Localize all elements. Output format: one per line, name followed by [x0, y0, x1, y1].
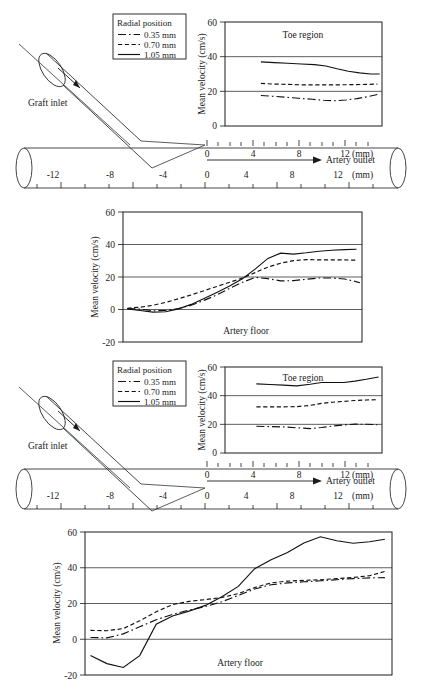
artery-outlet-arrow-upper	[207, 157, 322, 164]
graft-tick-0-upper: 0	[205, 170, 210, 180]
chart-x-unit-lower: (mm)	[352, 470, 373, 481]
artery-tick-12-lower2: 12	[333, 491, 343, 501]
floor1-ytick-0: 0	[110, 305, 115, 315]
toe1-ylabel: Mean velocity (cm/s)	[197, 33, 208, 114]
artery-tick-8-lower2: 8	[290, 491, 295, 501]
chart-xtick-12-upper: 12	[340, 149, 350, 159]
artery-tick-8-lower-upper: 8	[290, 170, 295, 180]
graft-tick--12-upper: -12	[47, 170, 60, 180]
chart-toe-region-1: 0 20 40 60 Mean velocity (cm/s) Toe regi…	[197, 18, 382, 132]
toe1-ytick-40: 40	[208, 52, 218, 62]
chart-toe-region-2: 0 20 40 60 Mean velocity (cm/s) Toe regi…	[197, 363, 382, 459]
artery-tick-4-lower2: 4	[244, 491, 249, 501]
chart-xtick-4-upper: 4	[251, 149, 256, 159]
chart-artery-floor-2: 60 40 20 0 -20 Mean velocity (cm/s) Arte…	[52, 528, 392, 681]
floor1-ytick--20: -20	[102, 338, 115, 348]
floor2-ytick-0: 0	[72, 635, 77, 645]
legend-entry-105-lower: 1.05 mm	[144, 397, 176, 407]
floor2-curve-070	[91, 571, 385, 630]
toe2-ytick-60: 60	[208, 363, 218, 373]
panel-artery-floor-lower: 60 40 20 0 -20 Mean velocity (cm/s) Arte…	[0, 520, 422, 691]
floor1-ytick-20: 20	[106, 273, 116, 283]
legend-upper: Radial position 0.35 mm 0.70 mm 1.05 mm	[113, 14, 186, 60]
toe2-ytick-0: 0	[212, 448, 217, 458]
toe1-region-label: Toe region	[283, 30, 324, 40]
artery-tick-12-lower-upper: 12	[333, 170, 343, 180]
graft-tick-0-lower: 0	[205, 491, 210, 501]
chart-xtick-0-upper: 0	[205, 149, 210, 159]
chart-artery-floor-1: 60 40 20 0 -20 Mean velocity (cm/s) Arte…	[90, 208, 362, 348]
floor2-ytick-20: 20	[68, 599, 78, 609]
panel-anastomosis-lower: Graft inlet	[0, 353, 422, 520]
floor1-region-label: Artery floor	[223, 326, 269, 336]
floor1-curve-035	[127, 277, 360, 310]
floor2-curve-105	[91, 537, 385, 668]
graft-inlet-arrow-upper	[58, 68, 80, 88]
graft-tick--8-lower: -8	[106, 491, 114, 501]
artery-outlet-arrow-lower	[207, 478, 322, 485]
panel-anastomosis-upper: Graft inlet	[0, 0, 422, 198]
toe1-curve-105	[261, 62, 380, 74]
artery-unit-lower-upper: (mm)	[352, 170, 373, 181]
chart-x-scale-lower	[207, 461, 368, 467]
legend-lower: Radial position 0.35 mm 0.70 mm 1.05 mm	[113, 361, 186, 407]
toe2-ytick-20: 20	[208, 420, 218, 430]
floor1-ytick-60: 60	[106, 208, 116, 218]
toe2-curve-070	[256, 400, 377, 407]
legend-entry-035-lower: 0.35 mm	[144, 377, 176, 387]
toe2-region-label: Toe region	[283, 373, 324, 383]
artery-scale-ticks-lower	[37, 503, 373, 509]
graft-tick--4-upper: -4	[159, 170, 167, 180]
legend-entry-105-upper: 1.05 mm	[144, 50, 176, 60]
graft-tick--4-lower: -4	[159, 491, 167, 501]
artery-scale-ticks-upper	[37, 182, 373, 188]
floor1-ylabel: Mean velocity (cm/s)	[90, 236, 101, 317]
panel-artery-floor-upper: 60 40 20 0 -20 Mean velocity (cm/s) Arte…	[0, 198, 422, 353]
floor1-curve-070	[127, 260, 356, 309]
graft-inlet-arrow-lower	[58, 411, 80, 431]
toe1-ytick-0: 0	[212, 121, 217, 131]
chart-xtick-8-upper: 8	[297, 149, 302, 159]
toe1-ytick-20: 20	[208, 87, 218, 97]
chart-x-unit-upper: (mm)	[352, 149, 373, 160]
chart-xtick-4-lower: 4	[251, 470, 256, 480]
floor1-curve-105	[127, 249, 356, 312]
legend-entry-070-upper: 0.70 mm	[144, 40, 176, 50]
artery-unit-lower2: (mm)	[352, 491, 373, 502]
graft-inlet-label-lower: Graft inlet	[28, 441, 68, 451]
legend-title-lower: Radial position	[117, 365, 172, 375]
artery-tick-4-lower-upper: 4	[244, 170, 249, 180]
floor2-ytick-60: 60	[68, 528, 78, 538]
figure-root: Graft inlet	[0, 0, 422, 691]
chart-x-scale-upper	[207, 140, 368, 146]
chart-xtick-0-lower: 0	[205, 470, 210, 480]
graft-tick--8-upper: -8	[106, 170, 114, 180]
floor1-ytick-40: 40	[106, 240, 116, 250]
floor2-ytick-40: 40	[68, 563, 78, 573]
chart-xtick-8-lower: 8	[297, 470, 302, 480]
floor2-region-label: Artery floor	[217, 658, 263, 668]
floor2-ylabel: Mean velocity (cm/s)	[52, 562, 63, 643]
toe1-ytick-60: 60	[208, 18, 218, 28]
legend-title-upper: Radial position	[117, 18, 172, 28]
toe1-curve-070	[261, 83, 378, 84]
legend-entry-035-upper: 0.35 mm	[144, 30, 176, 40]
toe2-curve-035	[256, 424, 377, 429]
legend-entry-070-lower: 0.70 mm	[144, 387, 176, 397]
graft-tick--12-lower: -12	[47, 491, 60, 501]
toe1-curve-035	[261, 95, 378, 101]
toe2-ylabel: Mean velocity (cm/s)	[197, 369, 208, 450]
floor2-ytick--20: -20	[64, 671, 77, 681]
graft-inlet-label-upper: Graft inlet	[28, 98, 68, 108]
chart-xtick-12-lower: 12	[340, 470, 350, 480]
toe2-ytick-40: 40	[208, 391, 218, 401]
